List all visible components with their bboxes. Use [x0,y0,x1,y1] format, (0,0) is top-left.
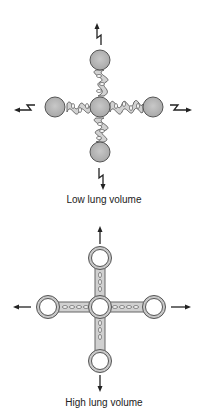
alveolus-left [40,299,57,316]
zigzag-arrow-up-icon [97,28,101,45]
zigzag-arrow-right-icon [170,105,188,110]
arrowhead-up-icon [95,23,100,29]
low-volume-label: Low lung volume [0,194,208,205]
high-volume-panel: High lung volume [0,207,208,414]
high-volume-label: High lung volume [0,397,208,408]
alveolus-top [92,250,109,267]
alveolus-center [90,97,110,117]
alveolus-left [45,97,65,117]
alveolus-right [143,97,163,117]
arrowhead-left-icon [14,108,20,113]
open-alveoli [37,247,166,373]
alveolus-right [146,299,163,316]
zigzag-arrow-down-icon [99,168,103,186]
alveolus-center [92,299,109,316]
alveolus-bottom [90,142,110,162]
collapsed-alveoli [45,50,163,162]
alveolus-top [90,50,110,70]
zigzag-arrow-left-icon [18,105,35,110]
arrowhead-down-icon [101,184,106,190]
alveolus-bottom [92,353,109,370]
arrowhead-right-icon [186,108,192,113]
low-volume-panel: Low lung volume [0,0,208,207]
low-volume-diagram [0,0,208,207]
high-volume-diagram [0,207,208,414]
